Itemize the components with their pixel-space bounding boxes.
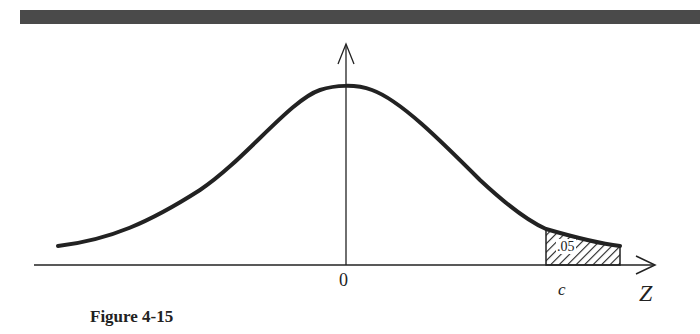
density-plot [0,0,700,334]
zero-tick-label: 0 [339,270,348,291]
bell-curve [58,86,620,246]
tail-area-label: .05 [556,239,576,254]
x-axis-label: Z [639,280,652,307]
figure-caption: Figure 4-15 [90,307,173,327]
critical-value-label: c [558,280,566,300]
